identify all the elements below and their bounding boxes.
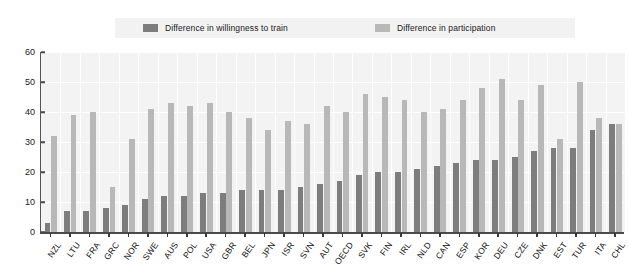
bar [440,109,446,232]
x-axis-tick-mark [69,233,71,237]
bar [324,106,330,232]
x-axis-tick-label: FIN [377,240,393,257]
bar [51,136,57,232]
bar [129,139,135,232]
bar [278,190,284,232]
bar [122,205,128,232]
bar [518,100,524,232]
bar [616,124,622,232]
chart-container: Difference in willingness to train Diffe… [0,0,630,276]
bar-group [567,52,586,232]
y-axis-tick-label: 30 [11,137,41,147]
x-axis-tick-mark [128,233,130,237]
x-axis-tick-mark [536,233,538,237]
x-axis-tick-mark [167,233,169,237]
legend-label-willingness: Difference in willingness to train [165,23,288,33]
y-axis-tick-label: 40 [11,107,41,117]
x-axis-tick-mark [575,233,577,237]
x-axis-tick-mark [205,233,207,237]
x-axis-tick-mark [108,233,110,237]
bar [473,160,479,232]
bar-group [216,52,235,232]
bar [239,190,245,232]
bar [246,118,252,232]
bar-group [99,52,118,232]
bar [285,121,291,232]
bar [460,100,466,232]
legend-swatch-dark-icon [143,24,158,32]
bar [356,175,362,232]
x-axis-tick-mark [595,233,597,237]
x-axis-tick-label: CZE [512,240,530,260]
x-axis-tick-label: KOR [472,240,491,261]
bar [512,157,518,232]
plot-area: 0102030405060 [40,52,625,232]
bar [531,151,537,232]
x-axis-tick-mark [614,233,616,237]
bar [148,109,154,232]
legend-item-participation: Difference in participation [375,23,495,33]
x-axis-labels: NZLLTUFRAGRCNORSWEAUSPOLUSAGBRBELJPNISRS… [40,233,624,276]
x-axis-tick-mark [342,233,344,237]
bar [596,118,602,232]
bar-group [255,52,274,232]
bar-group [158,52,177,232]
x-axis-tick-label: DNK [531,240,550,261]
bar [265,130,271,232]
x-axis-tick-mark [517,233,519,237]
bar [103,208,109,232]
bar [557,139,563,232]
x-axis-tick-mark [89,233,91,237]
bar [570,148,576,232]
bar [395,172,401,232]
x-axis-tick-mark [400,233,402,237]
x-axis-tick-mark [478,233,480,237]
bar [363,94,369,232]
bar-group [197,52,216,232]
bar [83,211,89,232]
bar [453,163,459,232]
bar-group [119,52,138,232]
chart-legend: Difference in willingness to train Diffe… [115,18,575,38]
x-axis-tick-label: IRL [397,240,413,257]
x-axis-tick-label: BEL [240,240,258,259]
bar [200,193,206,232]
bar [479,88,485,232]
bar [421,112,427,232]
x-axis-tick-label: JPN [259,240,277,259]
bar-group [275,52,294,232]
x-axis-tick-label: TUR [570,240,589,261]
x-axis-tick-label: NZL [45,240,63,259]
bar [168,103,174,232]
bar-group [450,52,469,232]
bar [64,211,70,232]
x-axis-tick-label: LTU [65,240,82,259]
x-axis-tick-mark [439,233,441,237]
bar [45,223,51,232]
x-axis-tick-label: ISR [280,240,297,258]
bar [142,199,148,232]
bar-group [430,52,449,232]
x-axis-tick-mark [361,233,363,237]
x-axis-tick-mark [420,233,422,237]
x-axis-tick-label: SVN [297,240,316,261]
bar [71,115,77,232]
x-axis-tick-mark [244,233,246,237]
x-axis-tick-label: ESP [453,240,471,260]
x-axis-tick-label: NLD [414,240,432,260]
x-axis-tick-label: CAN [433,240,452,261]
bar [590,130,596,232]
bar-group [294,52,313,232]
x-axis-tick-mark [225,233,227,237]
x-axis-tick-label: SWE [141,240,161,262]
x-axis-tick-mark [264,233,266,237]
x-axis-tick-mark [186,233,188,237]
bar [90,112,96,232]
x-axis-tick-mark [50,233,52,237]
x-axis-tick-label: FRA [84,240,102,260]
bar [161,196,167,232]
x-axis-tick-mark [147,233,149,237]
bar-group [41,52,60,232]
legend-swatch-light-icon [375,24,390,32]
bar [492,160,498,232]
